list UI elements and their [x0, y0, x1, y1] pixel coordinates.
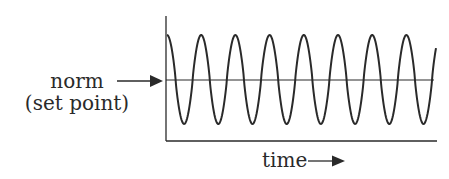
time-axis-label: time [262, 148, 307, 172]
norm-arrow-icon [117, 75, 163, 87]
norm-label: norm [50, 69, 103, 93]
set-point-label: (set point) [25, 91, 129, 115]
time-arrow-icon [308, 156, 345, 167]
homeostasis-oscillation-diagram: norm (set point) time [0, 0, 449, 179]
